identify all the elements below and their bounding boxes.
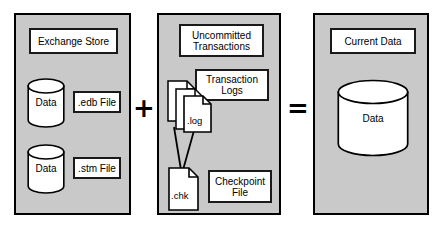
panel-uncommitted-transactions: Uncommitted Transactions Transaction Log… <box>157 13 281 215</box>
plus-operator: + <box>134 96 154 120</box>
current-data-heading: Current Data <box>330 28 416 54</box>
log-file-label: .log <box>187 116 202 126</box>
checkpoint-file-box: Checkpoint File <box>208 170 272 203</box>
chk-file-label: .chk <box>171 191 188 201</box>
stm-file-box: .stm File <box>73 157 121 179</box>
panel-exchange-store: Exchange Store Data .edb File Data .stm … <box>14 13 131 215</box>
panel-current-data: Current Data Data <box>313 13 429 215</box>
database-cylinder-edb: Data <box>27 78 65 128</box>
database-cylinder-current: Data <box>337 80 409 158</box>
edb-file-box: .edb File <box>73 91 121 113</box>
database-cylinder-edb-label: Data <box>27 97 65 108</box>
log-file-stack-icon: .log <box>167 75 223 133</box>
database-cylinder-current-label: Data <box>337 113 409 124</box>
diagram-canvas: Exchange Store Data .edb File Data .stm … <box>0 0 443 227</box>
chk-file-icon: .chk <box>168 167 202 211</box>
equals-operator: = <box>288 96 308 120</box>
database-cylinder-stm-label: Data <box>27 163 65 174</box>
exchange-store-heading: Exchange Store <box>29 28 118 54</box>
database-cylinder-stm: Data <box>27 144 65 194</box>
uncommitted-transactions-heading: Uncommitted Transactions <box>179 24 264 57</box>
